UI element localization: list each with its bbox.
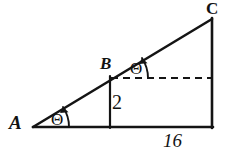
geometry-figure: A B C 2 16 Θ Θ xyxy=(0,0,231,153)
theta-label-at-b: Θ xyxy=(130,60,142,77)
theta-label-at-a: Θ xyxy=(51,111,63,128)
height-measure-label: 2 xyxy=(112,92,122,112)
vertex-label-c: C xyxy=(206,0,218,17)
vertex-label-a: A xyxy=(9,113,22,132)
base-measure-label: 16 xyxy=(163,131,182,150)
figure-canvas xyxy=(0,0,231,153)
vertex-label-b: B xyxy=(100,55,111,72)
